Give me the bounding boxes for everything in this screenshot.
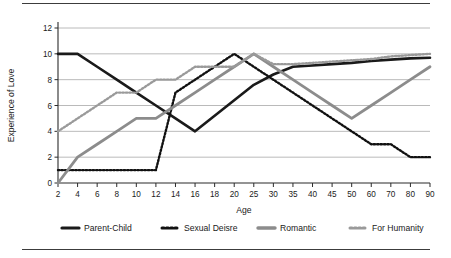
x-tick-label: 70: [386, 190, 396, 199]
legend-label-parent-child: Parent-Child: [84, 223, 132, 233]
x-tick-label: 50: [347, 190, 357, 199]
x-tick-label: 12: [151, 190, 161, 199]
x-tick-label: 14: [171, 190, 181, 199]
y-axis-title: Experience of Love: [6, 68, 16, 142]
y-tick-group: 024681012: [43, 24, 58, 188]
chart-legend: Parent-ChildSexual DeisreRomanticFor Hum…: [62, 223, 424, 233]
y-tick-label: 8: [47, 76, 52, 85]
x-tick-label: 25: [249, 190, 259, 199]
x-axis-title: Age: [236, 205, 252, 215]
series-line-parent-child: [58, 54, 430, 132]
x-tick-label: 18: [210, 190, 220, 199]
y-tick-label: 2: [47, 153, 52, 162]
figure-bottom-rule: [22, 249, 430, 250]
x-tick-label: 30: [269, 190, 279, 199]
x-tick-label: 35: [288, 190, 298, 199]
x-tick-label: 6: [95, 190, 100, 199]
x-tick-label: 10: [132, 190, 142, 199]
chart-plot-area: 024681012 246810121416182025303540455060…: [0, 8, 451, 246]
x-tick-label: 4: [75, 190, 80, 199]
x-tick-label: 8: [114, 190, 119, 199]
figure-top-rule: [22, 3, 430, 4]
x-tick-label: 2: [56, 190, 61, 199]
data-series-group: [58, 54, 430, 183]
legend-label-sexual-deisre: Sexual Deisre: [184, 223, 238, 233]
x-tick-label: 90: [425, 190, 435, 199]
series-line-sexual-deisre: [58, 54, 430, 170]
x-tick-label: 16: [190, 190, 200, 199]
series-line-romantic: [58, 54, 430, 183]
x-tick-label: 60: [367, 190, 377, 199]
y-tick-label: 0: [47, 179, 52, 188]
x-tick-label: 20: [230, 190, 240, 199]
y-tick-label: 4: [47, 127, 52, 136]
line-chart: 024681012 246810121416182025303540455060…: [0, 8, 451, 246]
figure-container: 024681012 246810121416182025303540455060…: [0, 0, 451, 258]
y-tick-label: 6: [47, 102, 52, 111]
legend-label-for-humanity: For Humanity: [372, 223, 424, 233]
legend-label-romantic: Romantic: [280, 223, 317, 233]
x-tick-label: 40: [308, 190, 318, 199]
y-tick-label: 12: [43, 24, 53, 33]
x-tick-group: 246810121416182025303540455060708090: [56, 183, 435, 199]
y-tick-label: 10: [43, 50, 53, 59]
x-tick-label: 80: [406, 190, 416, 199]
x-tick-label: 45: [328, 190, 338, 199]
